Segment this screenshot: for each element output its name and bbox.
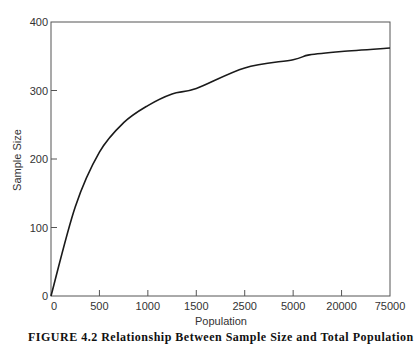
y-tick-label: 0	[42, 290, 48, 302]
x-axis-title: Population	[195, 315, 247, 327]
y-axis-ticks: 0100200300400	[30, 16, 57, 302]
x-axis-ticks: 050010001500250050002000075000	[51, 290, 405, 312]
x-tick-label: 75000	[375, 300, 406, 312]
y-axis-title: Sample Size	[11, 129, 23, 191]
figure-caption: FIGURE 4.2 Relationship Between Sample S…	[28, 330, 417, 345]
x-tick-label: 5000	[281, 300, 305, 312]
x-tick-label: 1500	[184, 300, 208, 312]
x-tick-label: 1000	[136, 300, 160, 312]
y-tick-label: 300	[30, 85, 48, 97]
y-tick-label: 100	[30, 222, 48, 234]
plot-axes	[51, 22, 390, 296]
x-tick-label: 500	[90, 300, 108, 312]
y-tick-label: 200	[30, 153, 48, 165]
plot-frame	[51, 22, 390, 296]
x-tick-label: 2500	[232, 300, 256, 312]
sample-size-curve	[51, 48, 390, 296]
x-tick-label: 20000	[326, 300, 357, 312]
x-tick-label: 0	[51, 300, 57, 312]
y-tick-label: 400	[30, 16, 48, 28]
